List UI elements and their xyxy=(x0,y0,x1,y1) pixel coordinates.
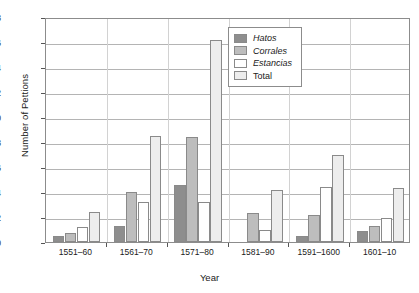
y-tick-label: 12 xyxy=(0,88,1,98)
bar xyxy=(150,136,162,242)
bar xyxy=(320,187,332,242)
legend-label: Estancias xyxy=(253,58,292,68)
bar xyxy=(198,202,210,242)
y-tick-label: 4 xyxy=(0,188,1,198)
y-tick-label: 8 xyxy=(0,138,1,148)
bar-chart: Number of Pettions Year 024681012141618 … xyxy=(0,0,419,293)
x-tick-label: 1601–10 xyxy=(340,247,419,257)
bar xyxy=(138,202,150,242)
y-tick-mark xyxy=(41,243,45,244)
y-tick-label: 0 xyxy=(0,238,1,248)
bar xyxy=(393,188,405,242)
legend-label: Hatos xyxy=(253,33,277,43)
legend-swatch-total xyxy=(234,71,247,80)
y-tick-label: 14 xyxy=(0,63,1,73)
x-axis-title: Year xyxy=(0,272,419,283)
chart-legend: HatosCorralesEstanciasTotal xyxy=(228,27,302,87)
y-tick-label: 2 xyxy=(0,213,1,223)
legend-label: Corrales xyxy=(253,46,287,56)
y-tick-label: 10 xyxy=(0,113,1,123)
bar xyxy=(89,212,101,242)
bar xyxy=(126,192,138,242)
bar xyxy=(210,40,222,243)
bar xyxy=(259,230,271,243)
bar xyxy=(53,236,65,242)
bar xyxy=(77,227,89,242)
x-tick-mark xyxy=(167,243,168,247)
legend-swatch-estancias xyxy=(234,59,247,68)
y-tick-label: 6 xyxy=(0,163,1,173)
x-tick-mark xyxy=(349,243,350,247)
bar xyxy=(381,218,393,242)
bar xyxy=(369,226,381,242)
bar xyxy=(174,185,186,243)
x-tick-mark xyxy=(106,243,107,247)
bar xyxy=(357,231,369,242)
legend-item[interactable]: Corrales xyxy=(234,45,292,58)
y-axis-title: Number of Pettions xyxy=(19,46,30,186)
bar xyxy=(114,226,126,242)
legend-label: Total xyxy=(253,71,272,81)
legend-item[interactable]: Total xyxy=(234,70,292,83)
y-tick-label: 16 xyxy=(0,38,1,48)
legend-swatch-corrales xyxy=(234,46,247,55)
bar xyxy=(296,236,308,242)
legend-swatch-hatos xyxy=(234,34,247,43)
legend-item[interactable]: Estancias xyxy=(234,57,292,70)
y-tick-label: 18 xyxy=(0,13,1,23)
bar xyxy=(308,215,320,243)
bar xyxy=(186,137,198,242)
x-tick-mark xyxy=(288,243,289,247)
bar xyxy=(247,213,259,242)
bar xyxy=(271,190,283,243)
legend-item[interactable]: Hatos xyxy=(234,32,292,45)
bar xyxy=(332,155,344,243)
x-tick-mark xyxy=(228,243,229,247)
bar xyxy=(65,233,77,242)
